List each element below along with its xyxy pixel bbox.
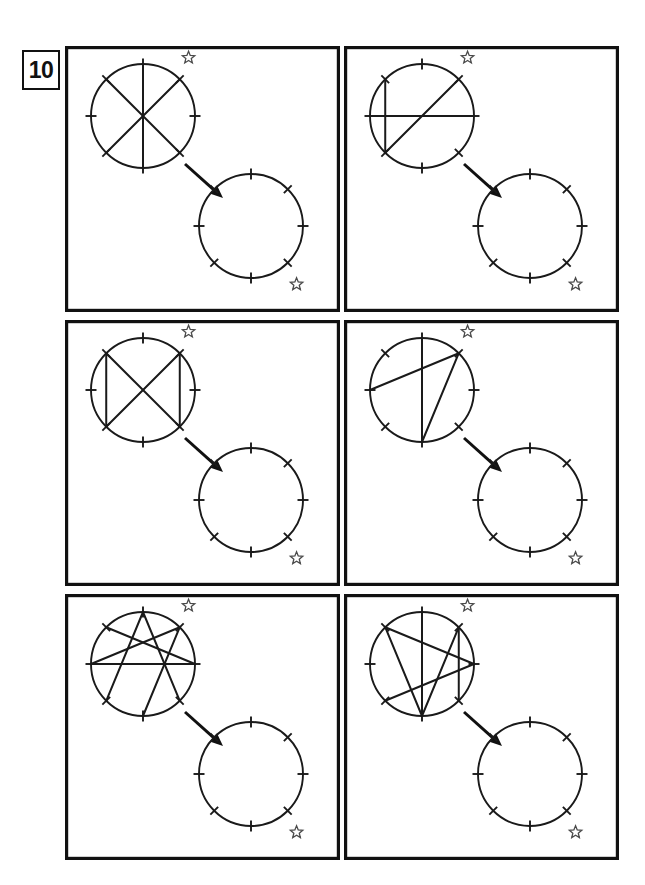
panel-1[interactable] <box>67 48 339 311</box>
panels-canvas <box>65 46 625 866</box>
panel-3[interactable] <box>67 322 339 585</box>
panel-grid <box>65 46 625 866</box>
panel-6[interactable] <box>346 596 618 859</box>
panel-5[interactable] <box>67 596 339 859</box>
exercise-number-badge: 10 <box>22 50 60 90</box>
worksheet-page: 10 <box>0 0 645 885</box>
panel-2[interactable] <box>346 48 618 311</box>
panel-4[interactable] <box>346 322 618 585</box>
